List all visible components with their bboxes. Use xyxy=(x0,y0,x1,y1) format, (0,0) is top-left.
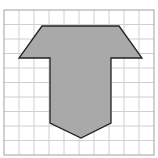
grid-diagram xyxy=(0,0,158,158)
